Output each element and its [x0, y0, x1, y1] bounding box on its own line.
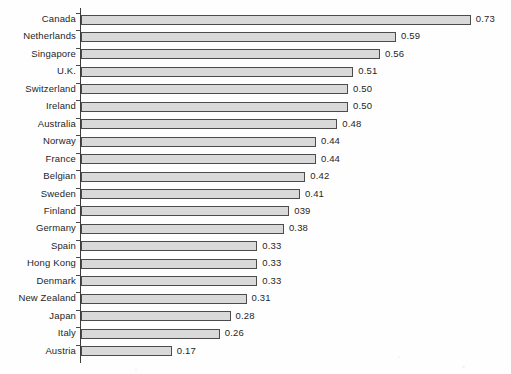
- value-label: 0.51: [358, 64, 377, 77]
- bar: [81, 67, 353, 77]
- value-label: 0.56: [385, 47, 404, 60]
- category-label: Netherlands: [0, 29, 76, 42]
- bar-chart: Canada0.73Netherlands0.59Singapore0.56U.…: [0, 0, 511, 374]
- category-label: Switzerland: [0, 82, 76, 95]
- bar: [81, 119, 337, 129]
- bar-row: Austria0.17: [0, 345, 511, 363]
- bar-row: Denmark0.33: [0, 275, 511, 293]
- value-label: 0.38: [289, 221, 308, 234]
- value-label: 0.42: [310, 169, 329, 182]
- category-label: Denmark: [0, 274, 76, 287]
- bar: [81, 49, 380, 59]
- category-label: France: [0, 152, 76, 165]
- bar: [81, 102, 348, 112]
- axis-tick: [76, 65, 80, 66]
- bar-row: Italy0.26: [0, 327, 511, 345]
- category-label: Spain: [0, 239, 76, 252]
- axis-tick: [76, 153, 80, 154]
- bar: [81, 189, 300, 199]
- axis-tick: [76, 205, 80, 206]
- category-label: U.K.: [0, 64, 76, 77]
- bar-row: Japan0.28: [0, 310, 511, 328]
- bar: [81, 15, 471, 25]
- value-label: 0.31: [252, 291, 271, 304]
- axis-tick: [76, 345, 80, 346]
- bar-row: Norway0.44: [0, 135, 511, 153]
- axis-tick: [76, 170, 80, 171]
- bar: [81, 329, 220, 339]
- value-label: 0.41: [305, 187, 324, 200]
- axis-tick: [76, 292, 80, 293]
- category-label: Singapore: [0, 47, 76, 60]
- category-label: Italy: [0, 326, 76, 339]
- bar-row: Spain0.33: [0, 240, 511, 258]
- category-label: Ireland: [0, 99, 76, 112]
- bar: [81, 294, 247, 304]
- value-label: 0.33: [262, 239, 281, 252]
- value-label: 0.26: [225, 326, 244, 339]
- category-label: Finland: [0, 204, 76, 217]
- value-label: 0.33: [262, 256, 281, 269]
- bar-row: Sweden0.41: [0, 188, 511, 206]
- bar: [81, 206, 289, 216]
- bar: [81, 32, 396, 42]
- value-label: 0.44: [321, 134, 340, 147]
- bar-row: Ireland0.50: [0, 100, 511, 118]
- value-label: 0.59: [401, 29, 420, 42]
- category-label: Belgian: [0, 169, 76, 182]
- category-label: Canada: [0, 12, 76, 25]
- category-label: Austria: [0, 344, 76, 357]
- category-label: Norway: [0, 134, 76, 147]
- bar: [81, 224, 284, 234]
- bar-row: Singapore0.56: [0, 48, 511, 66]
- category-label: Hong Kong: [0, 256, 76, 269]
- bar: [81, 311, 231, 321]
- bar-row: New Zealand0.31: [0, 292, 511, 310]
- bar-row: Belgian0.42: [0, 170, 511, 188]
- bar-row: Netherlands0.59: [0, 30, 511, 48]
- bar: [81, 154, 316, 164]
- value-label: 0.50: [353, 99, 372, 112]
- category-label: Japan: [0, 309, 76, 322]
- category-label: Sweden: [0, 187, 76, 200]
- axis-tick: [76, 100, 80, 101]
- bar-row: France0.44: [0, 153, 511, 171]
- value-label: 0.28: [236, 309, 255, 322]
- bar-row: Finland039: [0, 205, 511, 223]
- axis-tick: [76, 188, 80, 189]
- bar: [81, 172, 305, 182]
- category-label: Germany: [0, 221, 76, 234]
- axis-tick: [76, 257, 80, 258]
- bar-row: Germany0.38: [0, 222, 511, 240]
- bar-row: Hong Kong0.33: [0, 257, 511, 275]
- value-label: 0.33: [262, 274, 281, 287]
- axis-tick: [76, 83, 80, 84]
- axis-tick: [76, 275, 80, 276]
- value-label: 0.48: [342, 117, 361, 130]
- bar-row: Australia0.48: [0, 118, 511, 136]
- axis-tick: [76, 13, 80, 14]
- bar-row: Canada0.73: [0, 13, 511, 31]
- axis-tick: [76, 118, 80, 119]
- axis-tick: [76, 30, 80, 31]
- plot-area: Canada0.73Netherlands0.59Singapore0.56U.…: [0, 0, 511, 374]
- category-label: Australia: [0, 117, 76, 130]
- bar-row: U.K.0.51: [0, 65, 511, 83]
- axis-tick: [76, 310, 80, 311]
- value-label: 039: [294, 204, 310, 217]
- bar-row: Switzerland0.50: [0, 83, 511, 101]
- axis-tick: [76, 135, 80, 136]
- axis-tick: [76, 240, 80, 241]
- bar: [81, 84, 348, 94]
- axis-tick: [76, 222, 80, 223]
- value-label: 0.17: [177, 344, 196, 357]
- bar: [81, 346, 172, 356]
- bar: [81, 137, 316, 147]
- bar: [81, 241, 257, 251]
- bar: [81, 259, 257, 269]
- axis-tick: [76, 48, 80, 49]
- value-label: 0.44: [321, 152, 340, 165]
- bar: [81, 276, 257, 286]
- value-label: 0.73: [476, 12, 495, 25]
- axis-tick: [76, 327, 80, 328]
